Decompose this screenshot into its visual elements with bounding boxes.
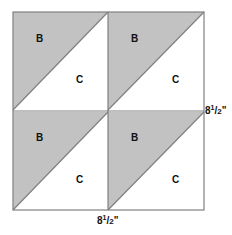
label-b: B [131, 33, 138, 44]
quilt-grid [0, 0, 232, 235]
label-c: C [172, 74, 179, 85]
label-c: C [76, 74, 83, 85]
label-b: B [36, 33, 43, 44]
dimension-bottom: 81/2" [97, 214, 118, 226]
label-c: C [76, 174, 83, 185]
label-b: B [131, 132, 138, 143]
label-b: B [36, 132, 43, 143]
label-c: C [172, 174, 179, 185]
dimension-right: 81/2" [205, 104, 226, 116]
